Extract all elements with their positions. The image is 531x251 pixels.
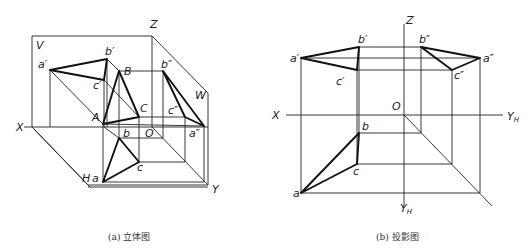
label-origin: O [145,127,154,140]
label-z-axis: Z [149,18,158,31]
caption-3d-view: (a) 立体图 [108,231,150,242]
svg-text:c: c [353,165,359,178]
svg-text:b: b [123,127,130,140]
svg-text:C: C [140,102,148,115]
svg-text:a″: a″ [483,52,495,65]
svg-text:c″: c″ [168,104,179,117]
svg-text:a′: a′ [290,52,300,65]
svg-text:c: c [137,161,143,174]
svg-text:a: a [293,187,300,200]
axonometric-view: V Z W X H Y O a′ b′ c′ A B C b″ c″ a″ a … [15,18,220,242]
svg-text:c′: c′ [336,75,345,88]
label-y-axis: Y [212,183,220,196]
triangle-h-projection [103,138,139,182]
svg-text:b″: b″ [419,33,431,46]
svg-text:b′: b′ [358,33,368,46]
label-yh-bottom: YH [400,202,413,216]
svg-text:a′: a′ [38,58,48,71]
triangle-side-view [421,47,480,70]
projection-diagram: V Z W X H Y O a′ b′ c′ A B C b″ c″ a″ a … [0,0,531,251]
svg-text:a: a [92,172,99,185]
svg-text:A: A [91,111,100,124]
label-x-axis: X [271,109,280,122]
caption-projection: (b) 投影图 [376,231,419,242]
label-z-axis: Z [405,14,414,27]
svg-text:c″: c″ [454,69,465,82]
h-plane-edge [32,127,208,185]
label-w-plane: W [195,89,207,102]
svg-text:b″: b″ [161,58,173,71]
svg-text:b′: b′ [105,45,115,58]
label-x-axis: X [15,121,24,134]
label-h-plane: H [82,172,90,185]
orthographic-projection: Z X O YH YH a′ b′ c′ b″ a″ c″ b c a (b) … [271,14,520,242]
label-origin: O [392,100,401,113]
triangle-front-view [301,47,359,70]
svg-text:b: b [362,120,369,133]
triangle-top-view [301,133,359,193]
label-yh-right: YH [507,110,520,124]
svg-text:c′: c′ [93,79,102,92]
triangle-v-projection [50,59,107,80]
label-v-plane: V [36,39,45,52]
svg-text:B: B [124,65,132,78]
45-degree-line [404,115,492,206]
svg-text:a″: a″ [189,127,201,140]
